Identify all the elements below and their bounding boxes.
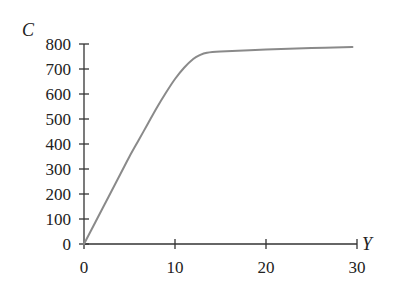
y-tick-label: 600 [46,85,72,104]
y-tick-label: 200 [46,185,72,204]
line-chart: 0100200300400500600700800 C 0102030 Y [0,0,399,289]
y-tick-label: 500 [46,110,72,129]
x-tick-label: 10 [167,258,184,277]
x-axis: 0102030 Y [80,234,374,277]
y-tick-label: 700 [46,60,72,79]
plot-area [84,47,352,244]
x-axis-label: Y [362,234,374,254]
y-axis-label: C [22,20,35,40]
y-tick-label: 300 [46,160,72,179]
x-axis-ticks: 0102030 [80,239,366,277]
y-tick-label: 0 [63,235,72,254]
y-tick-label: 400 [46,135,72,154]
x-tick-label: 30 [349,258,366,277]
y-tick-label: 800 [46,35,72,54]
y-axis: 0100200300400500600700800 C [22,20,89,254]
y-axis-ticks: 0100200300400500600700800 [46,35,90,254]
series-line [84,47,352,244]
x-tick-label: 0 [80,258,89,277]
x-tick-label: 20 [258,258,275,277]
y-tick-label: 100 [46,210,72,229]
